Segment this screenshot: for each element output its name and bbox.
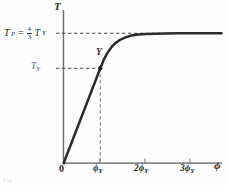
torque-twist-curve	[64, 33, 222, 163]
label-plastic-torque-subscript: p	[12, 30, 16, 37]
xtick-label-origin-text: 0	[59, 163, 64, 174]
xtick-label-origin: 0	[59, 164, 64, 174]
xtick-label-phiy-sub: Y	[99, 167, 103, 175]
fraction-denominator: 3	[27, 34, 32, 41]
label-yield-point: Y	[96, 48, 102, 58]
figure-caption: Fig.	[3, 177, 13, 183]
label-plastic-torque-factor: T	[34, 28, 40, 38]
axis-label-y: T	[54, 1, 61, 12]
label-yield-torque-subscript: Y	[36, 65, 40, 73]
label-plastic-torque: Tp = 4 3 TY	[4, 26, 46, 41]
label-plastic-torque-factor-subscript: Y	[42, 30, 46, 37]
axis-label-x: ϕ	[214, 160, 220, 171]
fraction-four-thirds: 4 3	[27, 26, 32, 41]
xtick-label-3phiy: 3ϕY	[180, 164, 195, 175]
xtick-label-3phiy-sub: Y	[190, 167, 194, 175]
xtick-label-3phiy-main: 3ϕ	[180, 163, 190, 173]
figure-container: T ϕ Tp = 4 3 TY TY Y 0 ϕY 2ϕY 3ϕY Fig.	[0, 0, 228, 185]
xtick-label-2phiy-main: 2ϕ	[134, 163, 144, 173]
equals-sign: =	[18, 28, 24, 38]
xtick-label-2phiy: 2ϕY	[134, 164, 149, 175]
label-yield-torque: TY	[31, 62, 40, 73]
xtick-label-phiy: ϕY	[93, 164, 103, 175]
xtick-label-2phiy-sub: Y	[144, 167, 148, 175]
label-plastic-torque-symbol: T	[4, 28, 10, 38]
yield-point-marker	[98, 66, 102, 70]
